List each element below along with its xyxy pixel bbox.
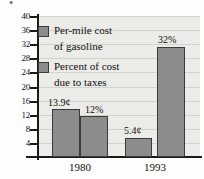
x-axis-label-1993: 1993 [133, 161, 177, 173]
y-axis-label: 12 [4, 111, 30, 120]
y-axis-label: 28 [4, 54, 30, 63]
bar-1993-per-mile-cost [125, 138, 152, 157]
y-axis-label: 24 [4, 68, 30, 77]
bar-1980-per-mile-cost [52, 109, 80, 157]
bar-1993-percent-taxes [157, 47, 185, 157]
x-axis-label-1980: 1980 [58, 161, 102, 173]
legend: Per-mile cost of gasoline Percent of cos… [38, 24, 119, 88]
y-axis-tick [30, 115, 39, 117]
y-axis-tick [30, 129, 39, 131]
bar-label-1980-percent-taxes: 12% [85, 105, 103, 115]
bar-label-1993-per-mile-cost: 5.4¢ [124, 126, 142, 136]
y-axis-label: 16 [4, 97, 30, 106]
bar-1980-percent-taxes [80, 116, 108, 157]
legend-label: Per-mile cost [54, 24, 112, 37]
legend-item-percent-taxes: Percent of cost [38, 60, 119, 73]
y-axis-label: 36 [4, 26, 30, 35]
y-axis-label: 32 [4, 40, 30, 49]
bar-label-1980-per-mile-cost: 13.9¢ [48, 98, 71, 108]
legend-label: Percent of cost [54, 60, 119, 73]
y-axis-label: 8 [4, 125, 30, 134]
y-axis-tick [30, 101, 39, 103]
legend-item-per-mile-cost: Per-mile cost [38, 24, 119, 37]
y-axis-label: 20 [4, 83, 30, 92]
legend-label-line2: of gasoline [54, 40, 119, 53]
y-axis-label: 4 [4, 139, 30, 148]
legend-swatch-icon [38, 62, 49, 73]
bar-label-1993-percent-taxes: 32% [158, 35, 176, 45]
legend-label-line2: due to taxes [54, 76, 119, 89]
legend-swatch-icon [38, 26, 49, 37]
y-axis-label: 40 [4, 12, 30, 21]
top-edge-artifact: • [9, 0, 13, 11]
gridline [38, 16, 200, 17]
bar-chart: • 40 36 32 28 24 20 16 12 8 4 Per-mile c… [0, 0, 204, 179]
y-axis-tick [30, 143, 39, 145]
y-axis-tick [30, 16, 39, 18]
